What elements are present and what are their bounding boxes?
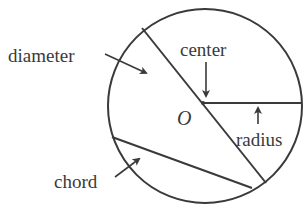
radius-label: radius [236, 129, 282, 150]
diameter-arrow-icon [105, 54, 146, 73]
chord-label: chord [54, 171, 98, 192]
diameter-label: diameter [8, 45, 75, 66]
chord-line [112, 137, 252, 188]
circle-diagram: diameter center O radius chord [0, 0, 305, 215]
center-point [201, 101, 205, 105]
center-label: center [180, 39, 227, 60]
center-name-label: O [177, 107, 191, 129]
